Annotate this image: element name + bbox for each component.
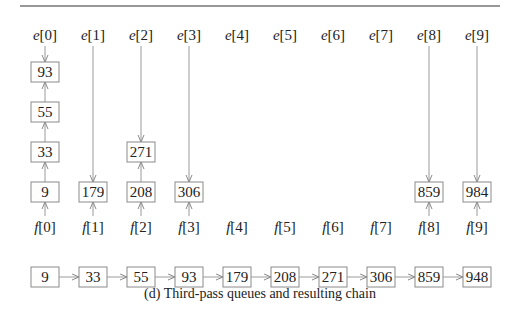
queue-tail-label: f[9] bbox=[466, 219, 488, 235]
queue-1: 179 bbox=[79, 46, 107, 216]
queue-tail-label: f[6] bbox=[322, 219, 344, 235]
queue-8: 859 bbox=[415, 46, 443, 216]
chain-node-value: 9 bbox=[41, 269, 49, 285]
queue-3: 306 bbox=[175, 46, 203, 216]
queue-head-label: e[5] bbox=[273, 27, 297, 43]
radix-sort-diagram: e[0]e[1]e[2]e[3]e[4]e[5]e[6]e[7]e[8]e[9]… bbox=[0, 0, 520, 327]
chain-node-value: 179 bbox=[226, 269, 249, 285]
queue-9: 984 bbox=[463, 46, 491, 216]
queue-node-value: 93 bbox=[38, 64, 53, 80]
queue-head-label: e[0] bbox=[33, 27, 57, 43]
queue-head-label: e[7] bbox=[369, 27, 393, 43]
queue-node-value: 33 bbox=[38, 144, 53, 160]
figure-caption: (d) Third-pass queues and resulting chai… bbox=[144, 286, 376, 302]
queue-head-label: e[1] bbox=[81, 27, 105, 43]
chain-node-value: 208 bbox=[274, 269, 297, 285]
chain-node-value: 33 bbox=[86, 269, 101, 285]
chain-node-value: 271 bbox=[322, 269, 345, 285]
chain-node-value: 93 bbox=[182, 269, 197, 285]
queue-tail-label: f[5] bbox=[274, 219, 296, 235]
chain-node-value: 948 bbox=[466, 269, 489, 285]
queue-node-value: 984 bbox=[466, 184, 489, 200]
queue-node-value: 9 bbox=[41, 184, 49, 200]
queue-tail-label: f[4] bbox=[226, 219, 248, 235]
queue-head-label: e[8] bbox=[417, 27, 441, 43]
queue-0: 9355339 bbox=[31, 46, 59, 216]
queue-node-value: 55 bbox=[38, 104, 53, 120]
chain-node-value: 859 bbox=[418, 269, 441, 285]
queue-head-labels: e[0]e[1]e[2]e[3]e[4]e[5]e[6]e[7]e[8]e[9] bbox=[33, 27, 489, 43]
chain-node-value: 55 bbox=[134, 269, 149, 285]
queue-tail-label: f[7] bbox=[370, 219, 392, 235]
queue-tail-labels: f[0]f[1]f[2]f[3]f[4]f[5]f[6]f[7]f[8]f[9] bbox=[34, 219, 488, 235]
queue-node-value: 208 bbox=[130, 184, 153, 200]
queue-head-label: e[3] bbox=[177, 27, 201, 43]
queue-head-label: e[2] bbox=[129, 27, 153, 43]
queue-node-value: 859 bbox=[418, 184, 441, 200]
queue-head-label: e[9] bbox=[465, 27, 489, 43]
queues: 9355339179271208306859984 bbox=[31, 46, 491, 216]
queue-tail-label: f[1] bbox=[82, 219, 104, 235]
queue-head-label: e[6] bbox=[321, 27, 345, 43]
result-chain: 9335593179208271306859948 bbox=[31, 267, 491, 287]
queue-tail-label: f[3] bbox=[178, 219, 200, 235]
queue-tail-label: f[0] bbox=[34, 219, 56, 235]
queue-node-value: 179 bbox=[82, 184, 105, 200]
queue-2: 271208 bbox=[127, 46, 155, 216]
queue-tail-label: f[2] bbox=[130, 219, 152, 235]
queue-tail-label: f[8] bbox=[418, 219, 440, 235]
queue-node-value: 306 bbox=[178, 184, 201, 200]
queue-node-value: 271 bbox=[130, 144, 153, 160]
chain-node-value: 306 bbox=[370, 269, 393, 285]
queue-head-label: e[4] bbox=[225, 27, 249, 43]
